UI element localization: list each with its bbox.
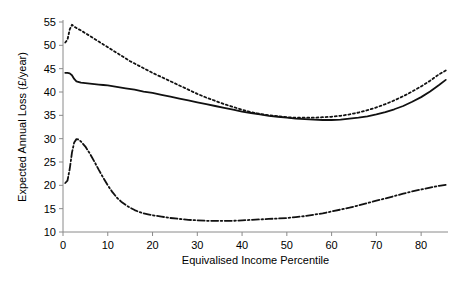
y-tick-label: 20 — [44, 179, 56, 191]
y-axis-title: Expected Annual Loss (£/year) — [16, 52, 28, 202]
y-tick-label: 45 — [44, 63, 56, 75]
y-tick-label: 30 — [44, 133, 56, 145]
x-tick-label: 40 — [236, 239, 248, 251]
y-tick-label: 50 — [44, 39, 56, 51]
x-tick-label: 60 — [325, 239, 337, 251]
x-tick-label: 0 — [60, 239, 66, 251]
x-tick-label: 10 — [102, 239, 114, 251]
x-tick-label: 50 — [281, 239, 293, 251]
expected-annual-loss-line-chart: 10152025303540455055 01020304050607080 E… — [0, 0, 468, 298]
y-tick-label: 10 — [44, 226, 56, 238]
y-tick-label: 35 — [44, 109, 56, 121]
y-tick-label: 15 — [44, 203, 56, 215]
x-axis-title: Equivalised Income Percentile — [182, 254, 329, 266]
y-tick-label: 55 — [44, 16, 56, 28]
y-tick-label: 40 — [44, 86, 56, 98]
x-tick-label: 80 — [415, 239, 427, 251]
x-tick-label: 30 — [191, 239, 203, 251]
y-tick-label: 25 — [44, 156, 56, 168]
x-tick-label: 70 — [370, 239, 382, 251]
x-tick-label: 20 — [146, 239, 158, 251]
chart-figure: 10152025303540455055 01020304050607080 E… — [0, 0, 468, 298]
